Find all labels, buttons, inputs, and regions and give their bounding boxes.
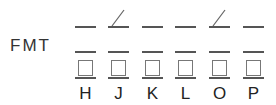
column-h: H xyxy=(75,0,97,105)
top-line xyxy=(243,26,264,28)
fmt-label: FMT xyxy=(10,36,51,56)
column-k: K xyxy=(142,0,164,105)
checkbox-square xyxy=(178,60,193,76)
column-letter: J xyxy=(108,84,129,104)
base-line xyxy=(175,77,196,79)
column-p: P xyxy=(243,0,265,105)
checkbox-square xyxy=(246,60,261,76)
checkbox-square xyxy=(111,60,126,76)
top-line xyxy=(75,26,96,28)
base-line xyxy=(75,77,96,79)
middle-line xyxy=(243,51,264,53)
column-o: O xyxy=(209,0,231,105)
base-line xyxy=(209,77,230,79)
checkbox-square xyxy=(212,60,227,76)
base-line xyxy=(108,77,129,79)
middle-line xyxy=(142,51,163,53)
middle-line xyxy=(209,51,230,53)
slash-mark-icon xyxy=(209,8,231,28)
column-j: J xyxy=(108,0,130,105)
middle-line xyxy=(108,51,129,53)
base-line xyxy=(142,77,163,79)
base-line xyxy=(243,77,264,79)
column-letter: P xyxy=(243,84,264,104)
column-letter: H xyxy=(75,84,96,104)
checkbox-square xyxy=(145,60,160,76)
top-line xyxy=(108,26,129,28)
column-letter: O xyxy=(209,84,230,104)
slash-mark-icon xyxy=(108,8,130,28)
checkbox-square xyxy=(78,60,93,76)
top-line xyxy=(142,26,163,28)
top-line xyxy=(175,26,196,28)
middle-line xyxy=(175,51,196,53)
top-line xyxy=(209,26,230,28)
column-letter: K xyxy=(142,84,163,104)
column-l: L xyxy=(175,0,197,105)
column-letter: L xyxy=(175,84,196,104)
middle-line xyxy=(75,51,96,53)
